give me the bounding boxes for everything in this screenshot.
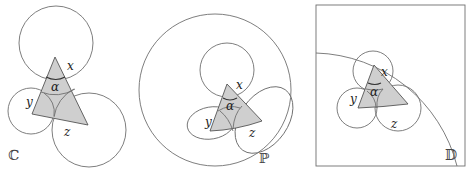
label-y: y (349, 92, 357, 106)
label-z: z (63, 125, 71, 139)
diagram-canvas: x α y z ℂ x α y z ℙ x α y z � (0, 0, 475, 174)
label-alpha: α (370, 85, 378, 99)
label-x: x (381, 65, 388, 79)
label-z: z (248, 126, 256, 140)
triangle (32, 57, 88, 125)
model-label-d: 𝔻 (445, 147, 457, 163)
label-x: x (236, 78, 243, 92)
label-y: y (204, 115, 212, 129)
model-label-c: ℂ (8, 147, 19, 163)
panel-halfplane: x α y z ℙ (139, 14, 305, 166)
label-x: x (67, 59, 74, 73)
model-label-p: ℙ (259, 150, 270, 166)
panel-euclidean: x α y z ℂ (8, 6, 126, 167)
label-z: z (390, 117, 398, 131)
label-alpha: α (51, 80, 59, 94)
label-y: y (25, 95, 33, 109)
label-alpha: α (226, 99, 234, 113)
outer-circle (139, 14, 291, 166)
panel-disk: x α y z 𝔻 (316, 5, 465, 166)
